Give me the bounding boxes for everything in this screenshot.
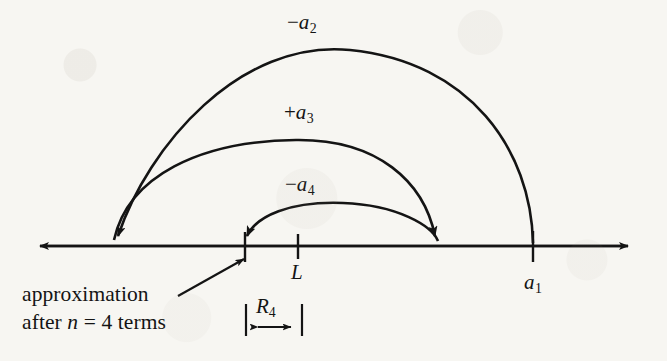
- arc-a2: [118, 49, 533, 243]
- arc-label-a2-sign: −: [287, 10, 299, 34]
- remainder-label-base: R: [256, 294, 269, 318]
- diagram-svg: [0, 0, 667, 361]
- arc-label-a3-base: a: [296, 100, 307, 124]
- caption-line-1: approximation: [22, 284, 149, 306]
- remainder-label-sub: 4: [269, 305, 276, 320]
- arc-label-a3-sub: 3: [307, 111, 314, 126]
- caption-line-2-prefix: after: [22, 310, 67, 334]
- arc-label-a2: −a2: [287, 12, 317, 36]
- point-label-limit: L: [291, 262, 303, 283]
- arc-label-a4-sub: 4: [308, 183, 315, 198]
- point-label-a1-base: a: [524, 270, 535, 294]
- remainder-label: R4: [256, 296, 276, 320]
- arc-label-a3-sign: +: [284, 100, 296, 124]
- point-label-a1: a1: [524, 272, 542, 296]
- caption-variable-n: n: [67, 310, 78, 334]
- arc-label-a4: −a4: [285, 174, 315, 198]
- point-label-a1-sub: 1: [535, 281, 542, 296]
- arc-a4: [247, 203, 438, 241]
- caption-line-2: after n = 4 terms: [22, 312, 166, 334]
- arc-label-a4-base: a: [297, 172, 308, 196]
- arc-label-a3: +a3: [284, 102, 314, 126]
- arc-label-a2-base: a: [299, 10, 310, 34]
- figure-canvas: −a2 +a3 −a4 L a1 R4 approximation after …: [0, 0, 667, 361]
- caption-pointer-arrow: [178, 259, 244, 296]
- arc-a3: [114, 140, 435, 240]
- arc-label-a4-sign: −: [285, 172, 297, 196]
- caption-line-2-suffix: = 4 terms: [78, 310, 166, 334]
- arc-label-a2-sub: 2: [310, 21, 317, 36]
